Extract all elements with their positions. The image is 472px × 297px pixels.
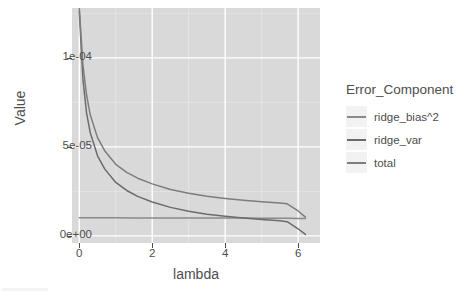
- x-tick-mark: [152, 243, 153, 248]
- legend-item[interactable]: ridge_var: [346, 128, 466, 151]
- legend-title: Error_Component: [346, 82, 466, 97]
- data-series-group: [79, 8, 305, 234]
- y-tick-mark: [67, 58, 72, 59]
- x-tick-label: 6: [295, 247, 301, 259]
- x-tick-label: 4: [222, 247, 228, 259]
- x-tick-label: 0: [76, 247, 82, 259]
- legend-key-swatch: [346, 129, 367, 150]
- x-tick-mark: [298, 243, 299, 248]
- legend-item-label: ridge_var: [374, 134, 422, 146]
- legend-item-label: total: [374, 157, 396, 169]
- plot-area-svg: [72, 8, 320, 243]
- gridlines-minor: [72, 8, 320, 243]
- x-tick-mark: [79, 243, 80, 248]
- series-line: [79, 12, 305, 235]
- plot-panel: [72, 8, 320, 243]
- legend-item-label: ridge_bias^2: [374, 111, 439, 123]
- y-axis-title: Value: [12, 48, 28, 168]
- series-line: [79, 218, 305, 219]
- chart-container: Value 0e+005e-051e-04 lambda 0246 Error_…: [0, 0, 472, 297]
- legend-line-icon: [347, 116, 366, 118]
- legend-item[interactable]: ridge_bias^2: [346, 105, 466, 128]
- legend: Error_Component ridge_bias^2ridge_vartot…: [346, 82, 466, 174]
- legend-key-swatch: [346, 106, 367, 127]
- legend-line-icon: [347, 162, 366, 164]
- x-axis-title: lambda: [72, 266, 320, 282]
- x-tick-mark: [225, 243, 226, 248]
- y-tick-mark: [67, 147, 72, 148]
- legend-items: ridge_bias^2ridge_vartotal: [346, 105, 466, 174]
- x-tick-label: 2: [149, 247, 155, 259]
- bottom-artifact: [2, 288, 48, 291]
- legend-line-icon: [347, 139, 366, 141]
- series-line: [79, 8, 305, 217]
- y-tick-mark: [67, 236, 72, 237]
- legend-item[interactable]: total: [346, 151, 466, 174]
- gridlines-major: [72, 8, 320, 243]
- legend-key-swatch: [346, 152, 367, 173]
